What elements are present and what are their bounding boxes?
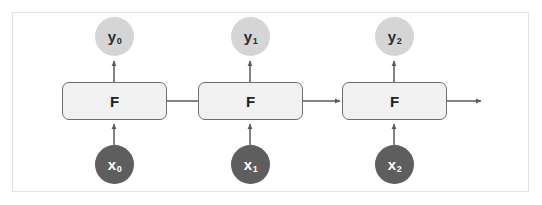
input-node-1: x1: [231, 145, 270, 184]
rnn-cell-1-label: F: [246, 94, 255, 109]
output-node-2: y2: [375, 17, 414, 56]
input-node-2: x2: [375, 145, 414, 184]
output-node-2-label: y2: [388, 29, 401, 44]
output-node-1-label: y1: [244, 29, 257, 44]
diagram-canvas: y0 F x0 y1 F x1 y2 F x2: [0, 0, 542, 205]
rnn-cell-2-label: F: [390, 94, 399, 109]
input-node-1-label: x1: [244, 157, 257, 172]
rnn-cell-0: F: [62, 82, 167, 120]
output-node-1: y1: [231, 17, 270, 56]
rnn-cell-2: F: [342, 82, 447, 120]
rnn-cell-1: F: [198, 82, 303, 120]
input-node-0: x0: [95, 145, 134, 184]
output-node-0: y0: [95, 17, 134, 56]
output-node-0-label: y0: [108, 29, 121, 44]
input-node-2-label: x2: [388, 157, 401, 172]
input-node-0-label: x0: [108, 157, 121, 172]
rnn-cell-0-label: F: [110, 94, 119, 109]
